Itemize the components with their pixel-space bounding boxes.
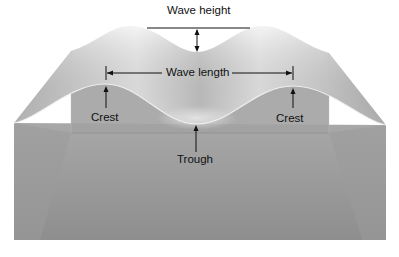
wave-diagram: Wave height Wave length Crest Crest Trou… (0, 0, 399, 257)
wave-length-label: Wave length (166, 67, 230, 79)
crest-left-label: Crest (91, 112, 118, 124)
trough-label: Trough (177, 154, 213, 166)
wave-height-label: Wave height (167, 5, 231, 17)
crest-right-label: Crest (276, 113, 303, 125)
wave-illustration (0, 0, 399, 257)
water-body (14, 123, 386, 240)
